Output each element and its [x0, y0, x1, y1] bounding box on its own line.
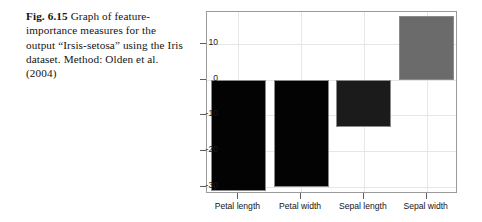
bar-chart: Importance 100-10-20-30Petal lengthPetal… [178, 0, 482, 222]
y-axis-tick-label: -30 [194, 180, 218, 190]
y-axis-tick-label: -20 [194, 144, 218, 154]
plot-area [206, 11, 457, 193]
bar [336, 80, 391, 127]
bar [274, 80, 329, 187]
figure-caption: Fig. 6.15 Graph of feature-importance me… [26, 9, 186, 80]
figure-number: Fig. 6.15 [26, 10, 68, 22]
x-axis-tick [426, 193, 427, 199]
x-axis-tick [300, 193, 301, 199]
y-axis-tick-label: 10 [194, 37, 218, 47]
x-axis-tick [237, 193, 238, 199]
y-axis-tick-label: -10 [194, 108, 218, 118]
y-axis-tick-label: 0 [194, 73, 218, 83]
bar [399, 16, 454, 80]
x-axis-category-label: Sepal width [386, 201, 466, 211]
bar [211, 80, 266, 191]
x-axis-tick [363, 193, 364, 199]
figure-page: Fig. 6.15 Graph of feature-importance me… [0, 0, 482, 222]
